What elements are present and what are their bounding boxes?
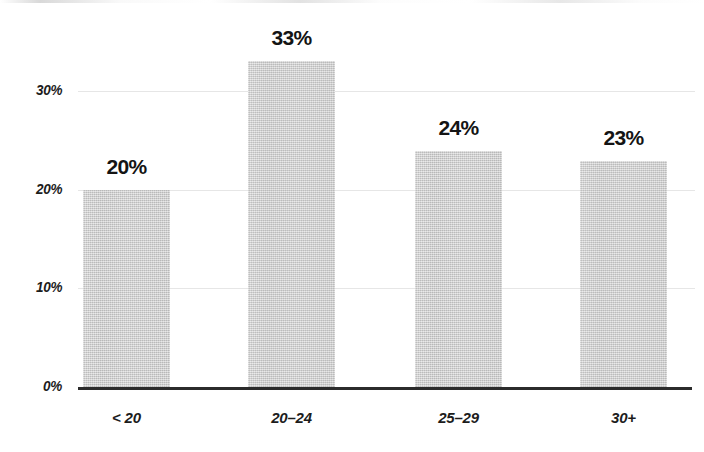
bar-under-20[interactable]	[83, 190, 170, 388]
category-label-25-29: 25–29	[415, 409, 502, 426]
bar-20-24[interactable]	[248, 61, 335, 388]
y-tick-label-0: 0%	[43, 377, 62, 394]
bar-chart: 30% 20% 10% 0% 20% 33% 24% 23% < 20 20–2…	[0, 0, 704, 452]
bar-value-25-29: 24%	[415, 116, 502, 140]
category-label-30-plus: 30+	[580, 409, 667, 426]
plot-area: 30% 20% 10% 0% 20% 33% 24% 23% < 20 20–2…	[0, 0, 704, 452]
category-label-under-20: < 20	[83, 409, 170, 426]
x-axis-line	[78, 387, 692, 390]
bar-value-30-plus: 23%	[580, 126, 667, 150]
category-label-20-24: 20–24	[248, 409, 335, 426]
bar-30-plus[interactable]	[580, 161, 667, 388]
gridline-30	[78, 91, 695, 92]
y-tick-label-20: 20%	[36, 180, 62, 197]
bar-25-29[interactable]	[415, 151, 502, 388]
y-tick-label-30: 30%	[36, 81, 62, 98]
y-tick-label-10: 10%	[36, 278, 62, 295]
bar-value-under-20: 20%	[83, 155, 170, 179]
bar-value-20-24: 33%	[248, 26, 335, 50]
